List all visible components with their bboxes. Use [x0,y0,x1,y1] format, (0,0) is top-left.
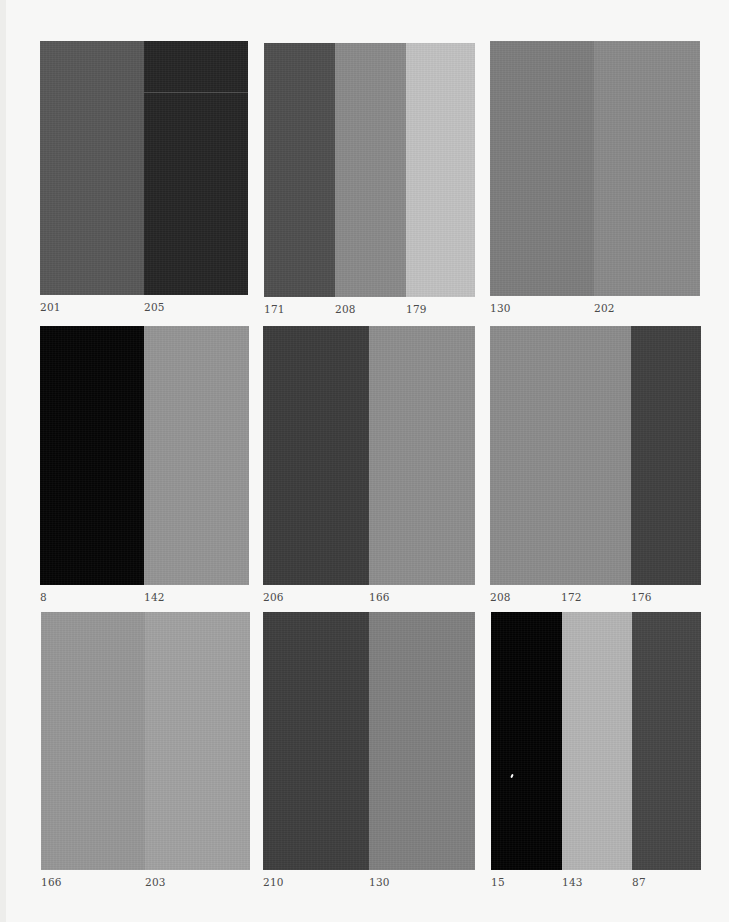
swatch-card-r1c2: 171208179 [264,43,475,317]
swatch-number-label: 171 [264,304,285,315]
grey-swatch-stripe [594,41,700,296]
grey-swatch-stripe [335,43,406,297]
grey-swatch-stripe [145,612,250,870]
swatch-number-label: 203 [145,877,166,888]
grey-swatch-stripe [369,326,475,585]
swatch-stripes [491,612,701,870]
grey-swatch-stripe [40,326,144,585]
swatch-number-label: 142 [144,592,165,603]
swatch-stripes [40,326,249,585]
swatch-stripes [490,326,701,585]
swatch-number-label: 87 [632,877,646,888]
swatch-number-label: 179 [406,304,427,315]
grey-swatch-stripe [491,612,562,870]
swatch-number-label: 166 [369,592,390,603]
swatch-card-r1c1: 201205 [40,41,248,315]
grey-swatch-stripe [41,612,145,870]
swatch-stripes [263,612,475,870]
swatch-card-r3c3: 1514387 [491,612,701,890]
grey-swatch-stripe [144,41,248,295]
swatch-number-label: 8 [40,592,47,603]
swatch-number-label: 202 [594,303,615,314]
grey-swatch-stripe [632,612,701,870]
swatch-stripes [263,326,475,585]
swatch-stripes [41,612,250,870]
swatch-card-r2c3: 208172176 [490,326,701,605]
swatch-number-label: 208 [335,304,356,315]
swatch-card-r3c2: 210130 [263,612,475,890]
swatch-number-label: 208 [490,592,511,603]
swatch-number-label: 15 [491,877,505,888]
grey-swatch-stripe [562,612,632,870]
swatch-number-label: 201 [40,302,61,313]
swatch-number-label: 166 [41,877,62,888]
grey-swatch-stripe [631,326,701,585]
swatch-stripes [490,41,700,296]
swatch-number-label: 130 [490,303,511,314]
swatch-stripes [40,41,248,295]
print-flaw-line [144,92,248,93]
swatch-number-label: 130 [369,877,390,888]
swatch-stripes [264,43,475,297]
swatch-number-label: 205 [144,302,165,313]
grey-swatch-stripe [40,41,144,295]
grey-swatch-stripe [263,326,369,585]
swatch-card-r1c3: 130202 [490,41,700,316]
grey-swatch-stripe [406,43,475,297]
swatch-number-label: 176 [631,592,652,603]
grey-swatch-stripe [369,612,475,870]
swatch-number-label: 143 [562,877,583,888]
swatch-number-label: 206 [263,592,284,603]
grey-swatch-stripe [264,43,335,297]
grey-swatch-stripe [561,326,631,585]
grey-swatch-stripe [490,326,561,585]
swatch-card-r3c1: 166203 [41,612,250,890]
dust-speck [510,774,514,778]
grey-swatch-stripe [144,326,249,585]
swatch-card-r2c1: 8142 [40,326,249,605]
swatch-card-r2c2: 206166 [263,326,475,605]
page-edge [0,0,6,922]
grey-swatch-stripe [263,612,369,870]
swatch-number-label: 172 [561,592,582,603]
swatch-number-label: 210 [263,877,284,888]
grey-swatch-stripe [490,41,594,296]
